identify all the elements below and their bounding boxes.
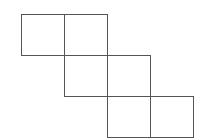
net-square-2 — [64, 14, 108, 56]
cube-net-diagram — [0, 0, 204, 140]
net-square-3 — [64, 55, 108, 97]
net-square-4 — [107, 55, 151, 97]
net-square-6 — [150, 96, 194, 138]
net-square-1 — [21, 14, 65, 56]
net-square-5 — [107, 96, 151, 138]
